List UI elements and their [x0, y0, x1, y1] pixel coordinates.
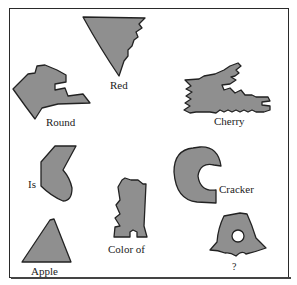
- red-shape: [83, 17, 145, 76]
- label-question: ?: [232, 262, 236, 272]
- round-shape: [13, 65, 90, 119]
- cherry-shape: [184, 63, 270, 113]
- label-cherry: Cherry: [214, 116, 245, 127]
- is-shape: [41, 146, 76, 201]
- label-color-of: Color of: [108, 244, 145, 255]
- label-cracker: Cracker: [219, 184, 254, 195]
- label-round: Round: [46, 117, 75, 128]
- color-of-shape: [114, 178, 147, 237]
- cracker-shape: [174, 147, 221, 203]
- question-shape: [210, 213, 266, 256]
- label-is: Is: [28, 179, 36, 190]
- label-apple: Apple: [31, 266, 58, 277]
- apple-shape-main: [22, 219, 71, 262]
- label-red: Red: [110, 80, 128, 91]
- shapes-canvas: [0, 0, 297, 285]
